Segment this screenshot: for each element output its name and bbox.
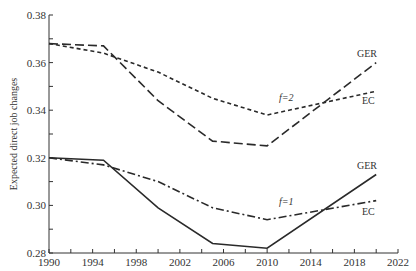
- x-tick-label: 1998: [125, 256, 148, 268]
- x-tick-label: 1994: [82, 256, 105, 268]
- x-tick-label: 2022: [387, 256, 409, 268]
- y-tick-label: 0.32: [27, 152, 46, 164]
- x-tick-label: 2006: [213, 256, 236, 268]
- label-f2: f=2: [279, 92, 294, 103]
- series-line: [49, 158, 376, 248]
- y-tick-label: 0.28: [27, 247, 47, 259]
- x-tick-label: 2014: [300, 256, 323, 268]
- label-ger-f2: GER: [357, 48, 377, 59]
- label-f1: f=1: [279, 196, 294, 207]
- y-tick-label: 0.38: [27, 9, 47, 21]
- axes: 1990199419982002200620102014201820220.28…: [27, 9, 409, 268]
- y-axis-label: Expected direct job changes: [8, 78, 19, 191]
- line-chart: 1990199419982002200620102014201820220.28…: [0, 0, 416, 271]
- label-ec-f2: EC: [362, 95, 375, 106]
- series-line: [49, 158, 376, 220]
- x-tick-label: 2018: [343, 256, 366, 268]
- y-tick-label: 0.36: [27, 57, 47, 69]
- x-tick-label: 2002: [169, 256, 191, 268]
- series-line: [49, 44, 376, 115]
- y-tick-label: 0.34: [27, 104, 47, 116]
- label-ger-f1: GER: [357, 160, 377, 171]
- label-ec-f1: EC: [362, 206, 375, 217]
- series-lines: [49, 44, 376, 249]
- x-tick-label: 2010: [256, 256, 279, 268]
- y-tick-label: 0.30: [27, 199, 47, 211]
- series-line: [49, 44, 376, 146]
